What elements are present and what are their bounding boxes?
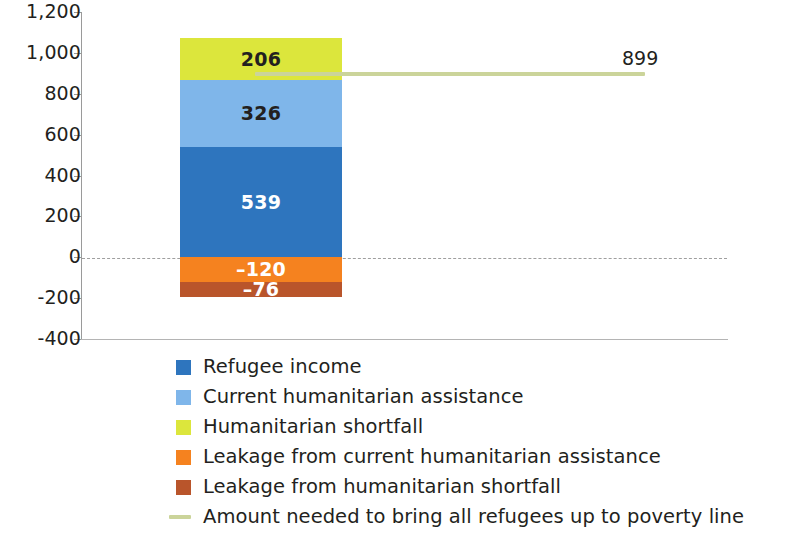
- bar-segment-value-label: 206: [241, 50, 281, 69]
- legend-item[interactable]: Leakage from current humanitarian assist…: [176, 442, 744, 472]
- y-tick-row: 0: [0, 257, 81, 258]
- legend-color-swatch: [176, 420, 191, 435]
- y-tick-label: 1,200: [15, 2, 81, 21]
- chart-legend: Refugee incomeCurrent humanitarian assis…: [176, 352, 744, 532]
- y-tick-label: 200: [15, 206, 81, 225]
- y-tick-label: 400: [15, 166, 81, 185]
- legend-item[interactable]: Leakage from humanitarian shortfall: [176, 472, 744, 502]
- legend-item-label: Leakage from humanitarian shortfall: [203, 476, 561, 498]
- y-axis-spine: [81, 12, 82, 339]
- y-tick-row: -200: [0, 298, 81, 299]
- y-tick-row: 1,200: [0, 12, 81, 13]
- bar-segment[interactable]: 539: [180, 147, 342, 257]
- legend-item-label: Leakage from current humanitarian assist…: [203, 446, 661, 468]
- legend-color-swatch: [176, 480, 191, 495]
- poverty-line-value-label: 899: [622, 49, 658, 68]
- y-tick-row: 800: [0, 94, 81, 95]
- bar-segment[interactable]: –76: [180, 282, 342, 298]
- bar-segment[interactable]: 326: [180, 80, 342, 147]
- legend-item[interactable]: Refugee income: [176, 352, 744, 382]
- legend-color-swatch: [176, 450, 191, 465]
- bar-segment-value-label: 539: [241, 193, 281, 212]
- y-tick-label: 800: [15, 84, 81, 103]
- chart-canvas: 1,2001,0008006004002000-200-400 53932620…: [0, 0, 792, 534]
- legend-item-label: Refugee income: [203, 356, 362, 378]
- legend-item[interactable]: Humanitarian shortfall: [176, 412, 744, 442]
- y-tick-row: 600: [0, 135, 81, 136]
- y-tick-row: 1,000: [0, 53, 81, 54]
- poverty-line: [255, 72, 645, 76]
- y-tick-label: -200: [15, 288, 81, 307]
- legend-item[interactable]: Current humanitarian assistance: [176, 382, 744, 412]
- legend-item-label: Current humanitarian assistance: [203, 386, 523, 408]
- legend-color-swatch: [176, 390, 191, 405]
- y-tick-label: 0: [15, 247, 81, 266]
- legend-item[interactable]: Amount needed to bring all refugees up t…: [176, 502, 744, 532]
- bar-segment-value-label: –76: [243, 280, 280, 299]
- y-tick-row: 200: [0, 216, 81, 217]
- bar-segment-value-label: –120: [236, 260, 286, 279]
- legend-line-swatch: [169, 515, 191, 519]
- y-tick-label: -400: [15, 329, 81, 348]
- y-tick-label: 600: [15, 125, 81, 144]
- legend-item-label: Amount needed to bring all refugees up t…: [203, 506, 744, 528]
- legend-item-label: Humanitarian shortfall: [203, 416, 423, 438]
- y-tick-row: -400: [0, 339, 81, 340]
- zero-reference-line: [82, 258, 727, 259]
- legend-color-swatch: [176, 360, 191, 375]
- y-tick-row: 400: [0, 176, 81, 177]
- y-tick-label: 1,000: [15, 43, 81, 62]
- bar-segment-value-label: 326: [241, 104, 281, 123]
- chart-baseline: [81, 339, 728, 340]
